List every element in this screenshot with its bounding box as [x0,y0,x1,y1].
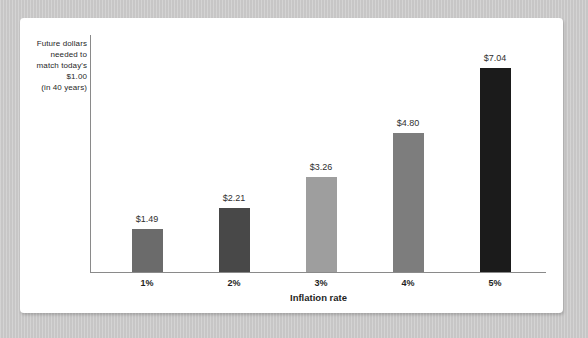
x-axis-label: Inflation rate [290,292,347,303]
bar-group: $7.045% [463,53,527,272]
bar [393,133,424,272]
y-axis-title-line: Future dollars [28,38,87,49]
y-axis-title-line: (in 40 years) [28,82,87,93]
bar-value-label: $4.80 [397,118,420,128]
bar-group: $4.804% [376,118,440,272]
bar-group: $1.491% [115,214,179,272]
y-axis-title: Future dollars needed to match today's $… [28,38,87,93]
page-background: Future dollars needed to match today's $… [0,0,588,338]
plot-area: $1.491%$2.212%$3.263%$4.804%$7.045% Infl… [90,35,546,273]
bar [306,177,337,272]
y-axis-title-line: needed to [28,49,87,60]
x-tick-label: 2% [202,278,266,288]
x-tick-label: 5% [463,278,527,288]
y-axis-title-line: match today's [28,60,87,71]
bar-value-label: $7.04 [484,53,507,63]
bar-group: $2.212% [202,193,266,272]
bar [132,229,163,272]
bar-value-label: $2.21 [223,193,246,203]
bar-value-label: $1.49 [136,214,159,224]
bar-value-label: $3.26 [310,162,333,172]
x-tick-label: 1% [115,278,179,288]
y-axis-title-line: $1.00 [28,71,87,82]
x-tick-label: 4% [376,278,440,288]
bar [219,208,250,272]
bar-group: $3.263% [289,162,353,272]
bars-container: $1.491%$2.212%$3.263%$4.804%$7.045% [91,35,546,272]
bar [480,68,511,272]
chart-card: Future dollars needed to match today's $… [20,18,563,313]
x-tick-label: 3% [289,278,353,288]
